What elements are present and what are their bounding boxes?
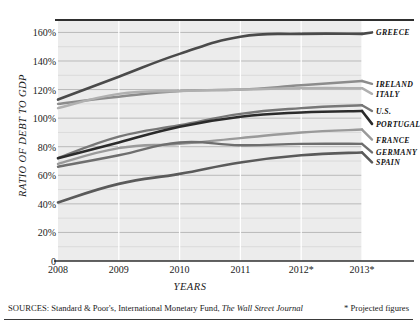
leader-france	[362, 130, 372, 140]
series-label-italy: ITALY	[376, 89, 400, 98]
footer-divider	[4, 319, 413, 320]
leader-us	[362, 105, 372, 111]
leader-ireland	[362, 81, 372, 84]
series-label-france: FRANCE	[376, 135, 410, 144]
y-axis-tick-labels: 020%40%60%80%100%120%140%160%	[12, 0, 56, 328]
series-label-germany: GERMANY	[376, 148, 417, 157]
leader-germany	[362, 144, 372, 153]
series-label-greece: GREECE	[376, 28, 410, 37]
leader-italy	[362, 88, 372, 94]
y-tick-20: 20%	[12, 227, 56, 238]
series-label-us: U.S.	[376, 107, 391, 116]
series-leader-stubs	[362, 32, 372, 162]
footer-sources-text: SOURCES: Standard & Poor's, Internationa…	[8, 303, 222, 313]
series-label-ireland: IRELAND	[376, 79, 413, 88]
y-tick-140: 140%	[12, 56, 56, 67]
x-tick-2008: 2008	[48, 264, 68, 275]
y-tick-160: 160%	[12, 27, 56, 38]
y-tick-40: 40%	[12, 198, 56, 209]
x-tick-2011: 2011	[231, 264, 251, 275]
footer-sources: SOURCES: Standard & Poor's, Internationa…	[8, 303, 303, 313]
y-tick-120: 120%	[12, 84, 56, 95]
series-label-portugal: PORTUGAL	[376, 119, 420, 128]
y-tick-60: 60%	[12, 170, 56, 181]
x-axis-title: YEARS	[0, 281, 380, 292]
y-tick-80: 80%	[12, 141, 56, 152]
x-tick-2013-proj: 2013*	[350, 264, 375, 275]
leader-greece	[362, 32, 372, 33]
footer-sources-publication: The Wall Street Journal	[222, 303, 303, 313]
leader-spain	[362, 152, 372, 162]
x-tick-2012-proj: 2012*	[289, 264, 314, 275]
x-tick-2010: 2010	[170, 264, 190, 275]
x-tick-2009: 2009	[109, 264, 129, 275]
footer-projected-note: * Projected figures	[344, 303, 409, 313]
leader-portugal	[362, 111, 372, 124]
y-tick-100: 100%	[12, 113, 56, 124]
series-label-spain: SPAIN	[376, 158, 400, 167]
